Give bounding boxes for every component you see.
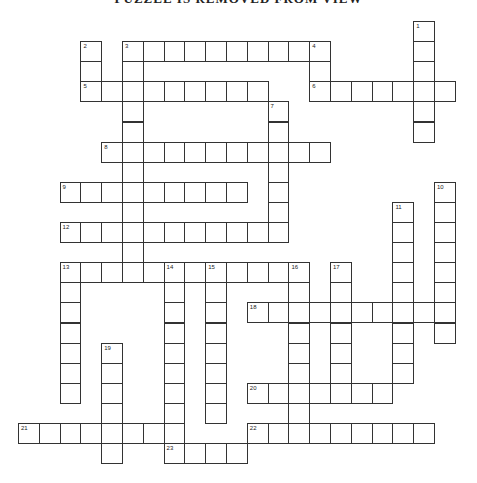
crossword-cell[interactable] bbox=[122, 222, 144, 243]
crossword-cell[interactable] bbox=[101, 403, 123, 424]
crossword-cell[interactable] bbox=[309, 142, 331, 163]
crossword-cell[interactable] bbox=[164, 222, 186, 243]
crossword-cell[interactable]: 4 bbox=[309, 41, 331, 62]
crossword-cell[interactable] bbox=[80, 61, 102, 82]
crossword-cell[interactable] bbox=[143, 182, 165, 203]
crossword-cell[interactable]: 14 bbox=[164, 262, 186, 283]
crossword-cell[interactable] bbox=[205, 182, 227, 203]
crossword-cell[interactable] bbox=[101, 222, 123, 243]
crossword-cell[interactable] bbox=[164, 403, 186, 424]
crossword-cell[interactable] bbox=[268, 142, 290, 163]
crossword-cell[interactable] bbox=[288, 343, 310, 364]
crossword-cell[interactable] bbox=[143, 142, 165, 163]
crossword-cell[interactable] bbox=[164, 302, 186, 323]
crossword-cell[interactable] bbox=[392, 363, 414, 384]
crossword-cell[interactable] bbox=[143, 41, 165, 62]
crossword-cell[interactable] bbox=[288, 383, 310, 404]
crossword-cell[interactable] bbox=[372, 423, 394, 444]
crossword-cell[interactable] bbox=[247, 142, 269, 163]
crossword-cell[interactable] bbox=[247, 81, 269, 102]
crossword-cell[interactable] bbox=[205, 81, 227, 102]
crossword-cell[interactable]: 11 bbox=[392, 202, 414, 223]
crossword-cell[interactable] bbox=[205, 41, 227, 62]
crossword-cell[interactable] bbox=[309, 383, 331, 404]
crossword-cell[interactable] bbox=[122, 162, 144, 183]
crossword-cell[interactable] bbox=[434, 323, 456, 344]
crossword-cell[interactable] bbox=[205, 383, 227, 404]
crossword-cell[interactable]: 5 bbox=[80, 81, 102, 102]
crossword-cell[interactable] bbox=[288, 41, 310, 62]
crossword-cell[interactable] bbox=[434, 202, 456, 223]
crossword-cell[interactable] bbox=[247, 222, 269, 243]
crossword-cell[interactable] bbox=[351, 302, 373, 323]
crossword-cell[interactable] bbox=[205, 142, 227, 163]
crossword-cell[interactable] bbox=[60, 302, 82, 323]
crossword-cell[interactable] bbox=[122, 81, 144, 102]
crossword-cell[interactable] bbox=[101, 363, 123, 384]
crossword-cell[interactable] bbox=[226, 81, 248, 102]
crossword-cell[interactable] bbox=[268, 41, 290, 62]
crossword-cell[interactable] bbox=[226, 262, 248, 283]
crossword-cell[interactable] bbox=[60, 343, 82, 364]
crossword-cell[interactable] bbox=[184, 81, 206, 102]
crossword-cell[interactable] bbox=[205, 403, 227, 424]
crossword-cell[interactable]: 19 bbox=[101, 343, 123, 364]
crossword-cell[interactable] bbox=[434, 222, 456, 243]
crossword-cell[interactable] bbox=[122, 423, 144, 444]
crossword-cell[interactable] bbox=[330, 383, 352, 404]
crossword-cell[interactable] bbox=[413, 302, 435, 323]
crossword-cell[interactable] bbox=[268, 122, 290, 143]
crossword-cell[interactable] bbox=[288, 323, 310, 344]
crossword-cell[interactable] bbox=[413, 81, 435, 102]
crossword-cell[interactable] bbox=[143, 222, 165, 243]
crossword-cell[interactable]: 23 bbox=[164, 443, 186, 464]
crossword-cell[interactable] bbox=[122, 242, 144, 263]
crossword-cell[interactable] bbox=[164, 182, 186, 203]
crossword-cell[interactable] bbox=[351, 81, 373, 102]
crossword-cell[interactable] bbox=[164, 81, 186, 102]
crossword-cell[interactable] bbox=[247, 262, 269, 283]
crossword-cell[interactable] bbox=[330, 282, 352, 303]
crossword-cell[interactable] bbox=[205, 302, 227, 323]
crossword-cell[interactable] bbox=[80, 222, 102, 243]
crossword-cell[interactable] bbox=[60, 282, 82, 303]
crossword-cell[interactable]: 3 bbox=[122, 41, 144, 62]
crossword-cell[interactable] bbox=[434, 282, 456, 303]
crossword-cell[interactable] bbox=[330, 343, 352, 364]
crossword-cell[interactable] bbox=[122, 122, 144, 143]
crossword-cell[interactable] bbox=[101, 182, 123, 203]
crossword-cell[interactable] bbox=[60, 383, 82, 404]
crossword-cell[interactable] bbox=[101, 443, 123, 464]
crossword-cell[interactable] bbox=[392, 343, 414, 364]
crossword-cell[interactable]: 16 bbox=[288, 262, 310, 283]
crossword-cell[interactable]: 9 bbox=[60, 182, 82, 203]
crossword-cell[interactable] bbox=[309, 423, 331, 444]
crossword-cell[interactable] bbox=[205, 363, 227, 384]
crossword-cell[interactable] bbox=[268, 423, 290, 444]
crossword-cell[interactable] bbox=[60, 363, 82, 384]
crossword-cell[interactable] bbox=[184, 262, 206, 283]
crossword-cell[interactable] bbox=[205, 323, 227, 344]
crossword-cell[interactable] bbox=[309, 302, 331, 323]
crossword-cell[interactable] bbox=[288, 282, 310, 303]
crossword-cell[interactable]: 6 bbox=[309, 81, 331, 102]
crossword-cell[interactable] bbox=[268, 162, 290, 183]
crossword-cell[interactable] bbox=[122, 262, 144, 283]
crossword-cell[interactable]: 7 bbox=[268, 101, 290, 122]
crossword-cell[interactable] bbox=[164, 41, 186, 62]
crossword-cell[interactable] bbox=[288, 302, 310, 323]
crossword-cell[interactable] bbox=[434, 262, 456, 283]
crossword-cell[interactable] bbox=[101, 383, 123, 404]
crossword-cell[interactable] bbox=[226, 443, 248, 464]
crossword-cell[interactable]: 12 bbox=[60, 222, 82, 243]
crossword-cell[interactable] bbox=[226, 182, 248, 203]
crossword-cell[interactable] bbox=[122, 182, 144, 203]
crossword-cell[interactable]: 2 bbox=[80, 41, 102, 62]
crossword-cell[interactable]: 21 bbox=[18, 423, 40, 444]
crossword-cell[interactable] bbox=[268, 302, 290, 323]
crossword-cell[interactable] bbox=[288, 363, 310, 384]
crossword-cell[interactable] bbox=[80, 262, 102, 283]
crossword-cell[interactable]: 20 bbox=[247, 383, 269, 404]
crossword-cell[interactable] bbox=[164, 282, 186, 303]
crossword-cell[interactable] bbox=[392, 302, 414, 323]
